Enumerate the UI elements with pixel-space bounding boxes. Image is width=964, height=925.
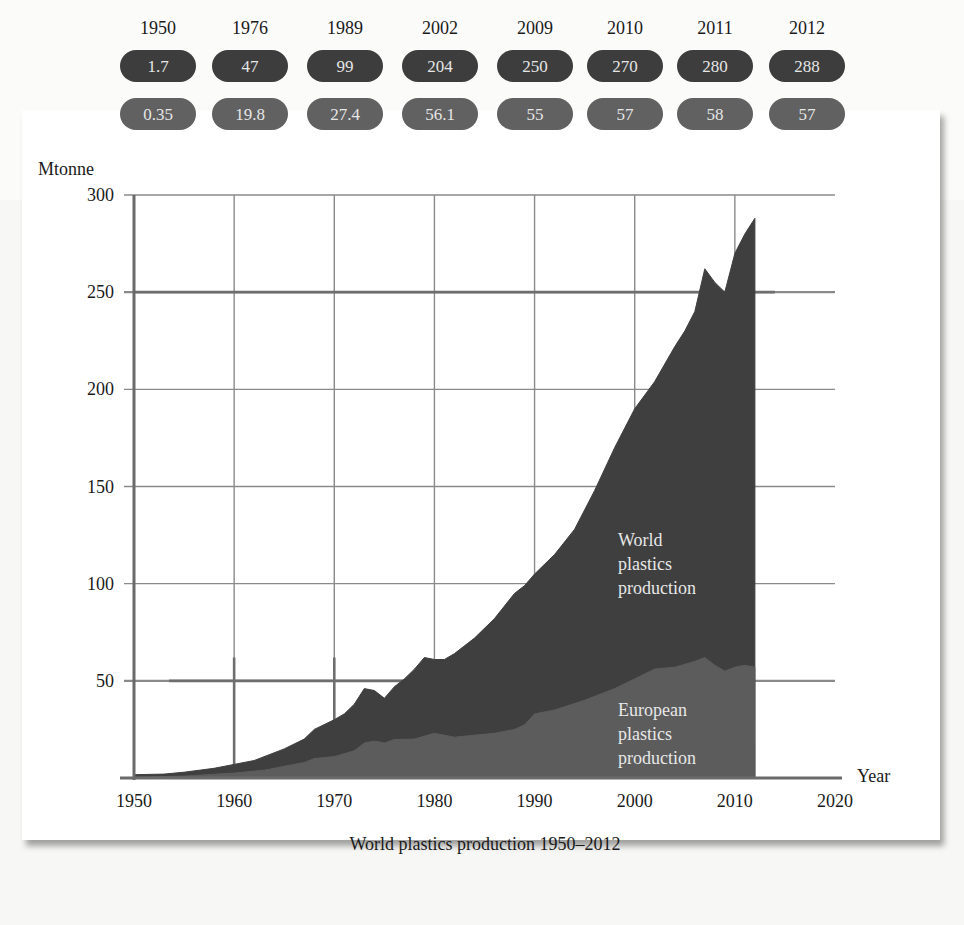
y-tick-label: 150 [87,477,114,497]
y-tick-label: 300 [87,185,114,205]
world-value: 250 [522,57,548,76]
world-value: 99 [337,57,354,76]
plastics-production-chart: 19501.70.3519764719.819899927.4200220456… [0,0,964,925]
world-value: 288 [794,57,820,76]
x-tick-label: 1970 [316,791,352,811]
y-tick-label: 100 [87,574,114,594]
world-area-label: production [618,578,696,598]
x-tick-label: 2010 [717,791,753,811]
world-value: 1.7 [147,57,169,76]
x-tick-label: 1990 [517,791,553,811]
europe-value: 0.35 [143,105,173,124]
world-value: 47 [242,57,260,76]
europe-area-label: production [618,748,696,768]
europe-area-label: European [618,700,687,720]
world-value: 270 [612,57,638,76]
table-year-label: 2011 [697,18,732,38]
world-value: 204 [427,57,453,76]
x-axis-title: Year [857,766,890,786]
y-tick-label: 200 [87,379,114,399]
europe-value: 27.4 [330,105,360,124]
table-year-label: 2009 [517,18,553,38]
europe-value: 58 [707,105,724,124]
area-series [134,218,755,778]
europe-value: 57 [617,105,635,124]
chart-caption: World plastics production 1950–2012 [349,834,620,854]
europe-value: 19.8 [235,105,265,124]
europe-area-label: plastics [618,724,672,744]
y-axis-title: Mtonne [38,159,94,179]
table-year-label: 1950 [140,18,176,38]
world-area-label: World [618,530,663,550]
figure-card: 19501.70.3519764719.819899927.4200220456… [0,0,964,925]
world-value: 280 [702,57,728,76]
europe-value: 57 [799,105,817,124]
x-tick-label: 1980 [416,791,452,811]
table-year-label: 1989 [327,18,363,38]
table-year-label: 2002 [422,18,458,38]
x-tick-label: 2000 [617,791,653,811]
europe-value: 56.1 [425,105,455,124]
x-tick-label: 2020 [817,791,853,811]
summary-table: 19501.70.3519764719.819899927.4200220456… [120,18,845,130]
y-tick-label: 50 [96,671,114,691]
table-year-label: 1976 [232,18,268,38]
x-tick-label: 1960 [216,791,252,811]
world-area-label: plastics [618,554,672,574]
table-year-label: 2012 [789,18,825,38]
table-year-label: 2010 [607,18,643,38]
x-tick-label: 1950 [116,791,152,811]
y-tick-label: 250 [87,282,114,302]
europe-value: 55 [527,105,544,124]
